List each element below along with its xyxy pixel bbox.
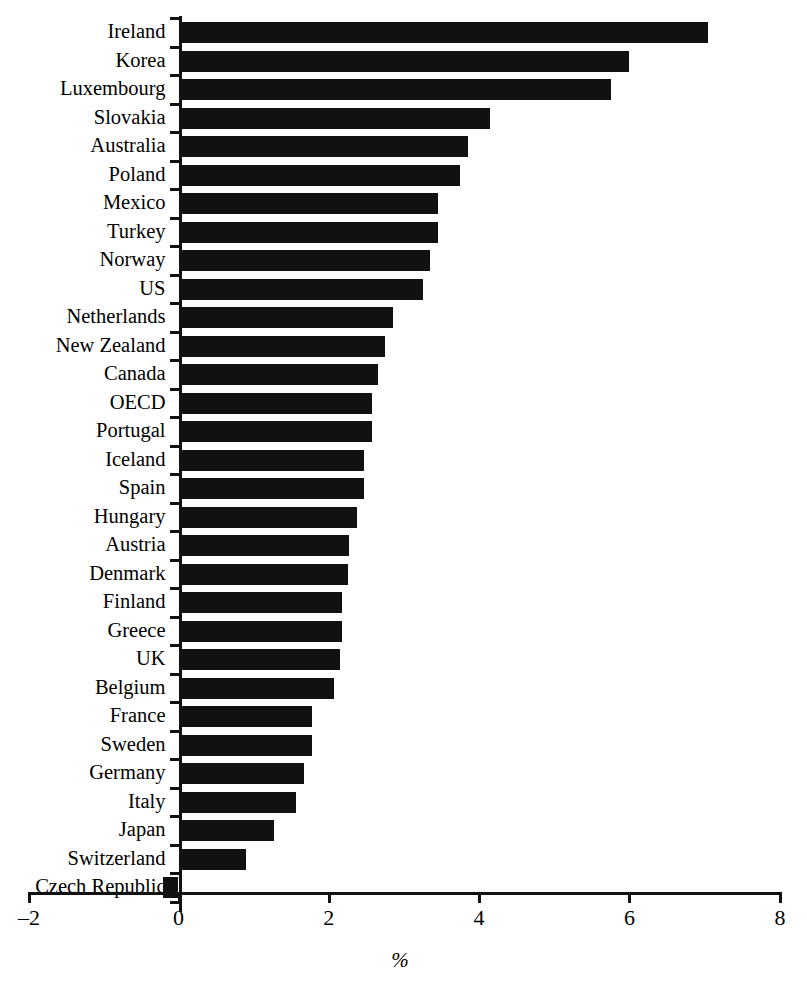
y-axis-tick — [170, 17, 179, 20]
y-axis-tick — [170, 673, 179, 676]
bar — [179, 792, 297, 813]
y-axis-tick-label: Ireland — [0, 21, 166, 42]
y-axis-tick-label: France — [0, 705, 166, 726]
x-axis-tick-label: 4 — [439, 906, 519, 930]
bar — [179, 336, 386, 357]
bar — [179, 222, 438, 243]
y-axis-tick — [170, 160, 179, 163]
y-axis-tick-label: Germany — [0, 762, 166, 783]
y-axis-tick — [170, 787, 179, 790]
y-axis-tick-label: Austria — [0, 534, 166, 555]
x-axis-tick-label: 6 — [589, 906, 669, 930]
y-axis-tick — [170, 331, 179, 334]
y-axis-tick-label: Belgium — [0, 677, 166, 698]
y-axis-tick-label: Finland — [0, 591, 166, 612]
y-axis-tick — [170, 188, 179, 191]
y-axis-tick-label: Greece — [0, 620, 166, 641]
y-axis-tick-label: OECD — [0, 392, 166, 413]
x-axis-tick — [28, 892, 31, 903]
bar — [179, 279, 423, 300]
y-axis-tick — [170, 416, 179, 419]
bar — [179, 706, 312, 727]
y-axis-tick — [170, 103, 179, 106]
y-axis-tick-label: Japan — [0, 819, 166, 840]
bar — [179, 250, 431, 271]
y-axis-tick — [170, 872, 179, 875]
y-axis-tick-label: Slovakia — [0, 107, 166, 128]
plot-area: IrelandKoreaLuxembourgSlovakiaAustraliaP… — [0, 0, 807, 993]
bar — [179, 79, 611, 100]
y-axis-tick-label: Italy — [0, 791, 166, 812]
bar — [179, 165, 461, 186]
y-axis-tick-label: Luxembourg — [0, 78, 166, 99]
y-axis-line — [179, 16, 182, 912]
y-axis-tick — [170, 46, 179, 49]
y-axis-tick-label: Netherlands — [0, 306, 166, 327]
y-axis-tick-label: Portugal — [0, 420, 166, 441]
x-axis-title: % — [340, 948, 460, 973]
bar — [179, 136, 468, 157]
y-axis-tick — [170, 730, 179, 733]
x-axis-tick — [628, 892, 631, 903]
bar — [179, 450, 365, 471]
bar — [179, 735, 312, 756]
x-axis-tick — [779, 892, 782, 903]
y-axis-tick — [170, 473, 179, 476]
bar — [179, 535, 350, 556]
y-axis-tick-label: Iceland — [0, 449, 166, 470]
y-axis-tick-label: Canada — [0, 363, 166, 384]
bar-chart: IrelandKoreaLuxembourgSlovakiaAustraliaP… — [0, 0, 807, 993]
bar — [179, 649, 341, 670]
y-axis-tick — [170, 502, 179, 505]
y-axis-tick — [170, 644, 179, 647]
y-axis-tick-label: Poland — [0, 164, 166, 185]
y-axis-tick-label: Norway — [0, 249, 166, 270]
bar — [179, 421, 373, 442]
bar — [179, 51, 630, 72]
y-axis-tick-label: Mexico — [0, 192, 166, 213]
y-axis-tick — [170, 388, 179, 391]
x-axis-tick — [478, 892, 481, 903]
y-axis-tick — [170, 445, 179, 448]
y-axis-tick — [170, 74, 179, 77]
y-axis-tick-label: Korea — [0, 50, 166, 71]
y-axis-tick-label: Spain — [0, 477, 166, 498]
y-axis-tick — [170, 217, 179, 220]
x-axis-line — [29, 892, 780, 895]
y-axis-tick-label: Switzerland — [0, 848, 166, 869]
y-axis-tick — [170, 302, 179, 305]
x-axis-tick-label: 0 — [139, 906, 219, 930]
y-axis-tick-label: US — [0, 278, 166, 299]
y-axis-tick — [170, 844, 179, 847]
y-axis-tick-label: Australia — [0, 135, 166, 156]
y-axis-tick — [170, 616, 179, 619]
x-axis-tick — [328, 892, 331, 903]
y-axis-tick — [170, 530, 179, 533]
x-axis-tick-label: –2 — [0, 906, 69, 930]
bar — [179, 820, 274, 841]
bar — [179, 763, 305, 784]
y-axis-tick-label: New Zealand — [0, 335, 166, 356]
bar — [179, 22, 709, 43]
y-axis-tick — [170, 559, 179, 562]
bar — [179, 364, 378, 385]
bar — [179, 507, 357, 528]
y-axis-tick — [170, 359, 179, 362]
y-axis-tick-label: Sweden — [0, 734, 166, 755]
y-axis-tick — [170, 274, 179, 277]
bar — [179, 478, 365, 499]
y-axis-tick — [170, 587, 179, 590]
bar — [179, 592, 342, 613]
bar — [179, 564, 348, 585]
y-axis-tick — [170, 758, 179, 761]
bar — [179, 849, 247, 870]
y-axis-tick-label: Turkey — [0, 221, 166, 242]
y-axis-tick-label: UK — [0, 648, 166, 669]
bar — [179, 621, 342, 642]
x-axis-tick-label: 2 — [289, 906, 369, 930]
y-axis-tick — [170, 701, 179, 704]
y-axis-tick — [170, 245, 179, 248]
bar — [179, 307, 393, 328]
bar — [179, 678, 335, 699]
x-axis-tick-label: 8 — [740, 906, 807, 930]
